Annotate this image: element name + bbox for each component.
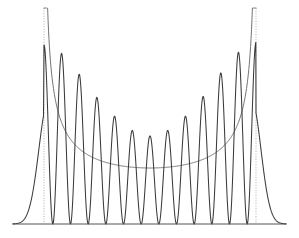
oscillator-probability-plot [0,0,299,238]
figure-root [0,0,299,238]
plot-background [0,0,299,238]
